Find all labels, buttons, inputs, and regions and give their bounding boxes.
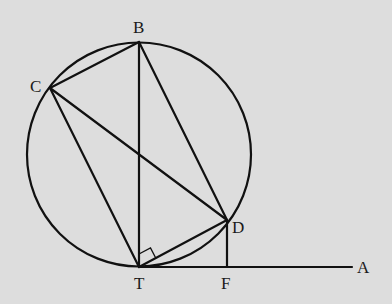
label-F: F xyxy=(221,274,230,293)
segment-CT xyxy=(50,88,139,267)
label-T: T xyxy=(134,274,145,293)
geometry-diagram: B C D T F A xyxy=(0,0,392,304)
label-B: B xyxy=(133,18,144,37)
segment-BD xyxy=(139,42,227,220)
label-C: C xyxy=(30,77,41,96)
segment-CB xyxy=(50,42,139,88)
diagram-canvas: B C D T F A xyxy=(0,0,392,304)
right-angle-marker xyxy=(139,248,156,259)
segment-TD xyxy=(139,220,227,267)
label-A: A xyxy=(357,258,370,277)
label-D: D xyxy=(232,218,244,237)
